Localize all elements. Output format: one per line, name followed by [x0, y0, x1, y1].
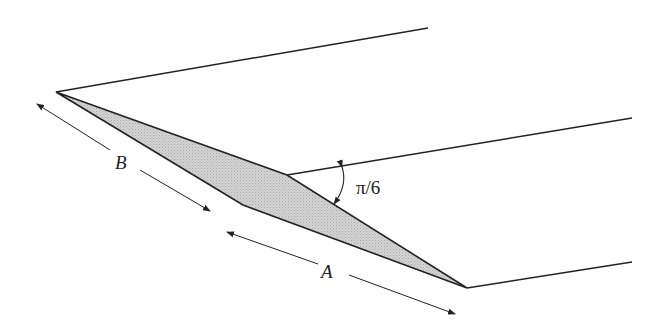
top-edge	[56, 28, 428, 92]
a-arrow-lower	[349, 275, 455, 314]
diagram-svg	[0, 0, 665, 335]
label-a: A	[321, 262, 333, 281]
a-arrow-upper	[227, 232, 318, 264]
bottom-edge	[467, 262, 632, 288]
diagram-canvas: B A π/6	[0, 0, 665, 335]
shaded-wedge	[56, 92, 467, 288]
angle-arc	[334, 167, 344, 204]
middle-edge	[287, 118, 632, 175]
label-b: B	[115, 153, 127, 172]
label-angle: π/6	[356, 178, 380, 197]
